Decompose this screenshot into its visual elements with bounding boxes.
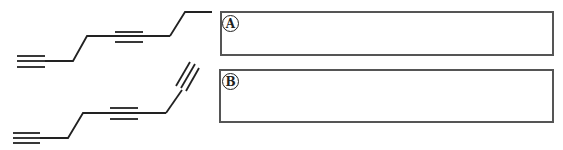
label-a: A [226, 18, 235, 30]
molecule-diagrams [0, 0, 215, 150]
label-b: B [225, 76, 235, 88]
label-a-circle: A [222, 15, 239, 32]
answer-box-b[interactable] [219, 69, 554, 123]
molecule-b [13, 62, 199, 143]
answer-box-a[interactable] [220, 11, 554, 56]
molecule-a [17, 12, 212, 67]
label-b-circle: B [222, 73, 239, 90]
